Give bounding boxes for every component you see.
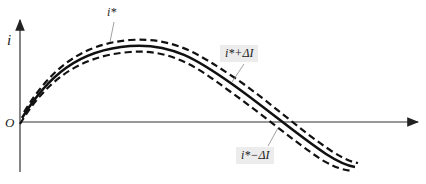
ref-curve-label: i* (107, 5, 116, 20)
upper-band-label: i*+ΔI (220, 45, 258, 62)
upper-leader (232, 64, 244, 82)
lower-leader (268, 128, 278, 146)
diagram-canvas (0, 0, 426, 184)
lower-band-label: i*−ΔI (236, 147, 274, 164)
origin-label: O (5, 115, 14, 131)
ref-leader (110, 22, 114, 42)
y-axis-label: i (7, 32, 11, 49)
lower-band-curve (20, 52, 352, 171)
